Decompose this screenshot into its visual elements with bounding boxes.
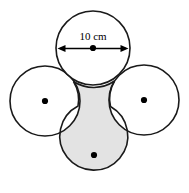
geometry-figure-container: 10 cm (0, 0, 189, 193)
right-circle-center-dot (141, 97, 147, 103)
left-circle-center-dot (42, 98, 48, 104)
geometry-figure-svg: 10 cm (0, 0, 189, 193)
dimension-label: 10 cm (79, 30, 107, 42)
top-circle-center-dot (90, 45, 96, 51)
bottom-circle-center-dot (91, 152, 97, 158)
